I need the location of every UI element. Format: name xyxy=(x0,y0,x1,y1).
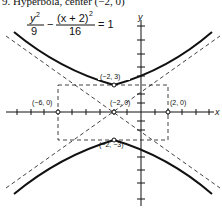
label-center: (−2, 0) xyxy=(110,99,130,107)
eq-rhs: = 1 xyxy=(98,18,114,30)
eq-den2: 16 xyxy=(69,25,81,37)
y-axis-label: y xyxy=(137,12,143,22)
eq-num2: (x + 2) xyxy=(57,12,88,24)
left-point xyxy=(56,110,60,114)
hyperbola-diagram: 9. Hyperbola, center (−2, 0) y 2 9 − (x … xyxy=(0,0,222,208)
center-point xyxy=(112,110,116,114)
label-top-vertex: (−2, 3) xyxy=(100,73,120,81)
figure-title: 9. Hyperbola, center (−2, 0) xyxy=(2,0,125,8)
eq-minus: − xyxy=(47,18,53,30)
equation: y 2 9 − (x + 2) 2 16 = 1 xyxy=(27,10,114,37)
top-vertex-point xyxy=(112,83,116,87)
label-bottom-vertex: (−2, −3) xyxy=(99,141,124,149)
right-point xyxy=(166,110,170,114)
lower-branch xyxy=(14,140,212,194)
label-right-point: (2, 0) xyxy=(170,99,186,107)
x-axis-label: x xyxy=(214,107,220,117)
label-left-point: (−6, 0) xyxy=(32,99,52,107)
axes xyxy=(6,20,214,206)
eq-den1: 9 xyxy=(31,25,37,37)
eq-num2-exp: 2 xyxy=(89,10,93,17)
eq-num1-exp: 2 xyxy=(36,11,40,18)
